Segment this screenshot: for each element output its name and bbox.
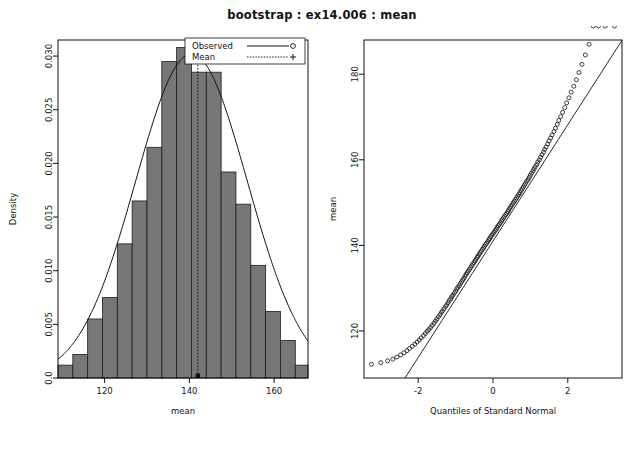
qq-x-tick-label: 0: [490, 386, 495, 396]
qq-data-point: [583, 53, 587, 57]
histogram-bar: [132, 201, 147, 378]
histogram-x-tick-label: 120: [96, 386, 112, 396]
qq-y-tick-label: 160: [350, 152, 360, 168]
histogram-x-axis: 120140160: [96, 378, 282, 396]
qq-y-tick-label: 140: [350, 237, 360, 253]
histogram-y-tick-label: 0.025: [44, 98, 54, 122]
histogram-svg: 0.00.0050.0100.0150.0200.0250.030 120140…: [0, 26, 322, 446]
histogram-y-axis-label: Density: [8, 193, 18, 225]
legend-label: Observed: [192, 41, 233, 51]
histogram-bar: [295, 365, 308, 378]
histogram-bar: [206, 72, 221, 378]
histogram-bars: [58, 48, 308, 378]
qq-x-tick-label: -2: [414, 386, 422, 396]
qq-data-point: [395, 355, 399, 359]
histogram-y-tick-label: 0.030: [44, 44, 54, 68]
qq-data-points: [369, 26, 616, 366]
qq-data-point: [574, 78, 578, 82]
histogram-bar: [191, 72, 206, 378]
histogram-bar: [73, 354, 88, 378]
qq-data-point: [596, 26, 600, 28]
histogram-y-tick-label: 0.020: [44, 151, 54, 175]
histogram-bar: [117, 244, 132, 378]
histogram-bar: [88, 319, 103, 378]
qq-data-point: [580, 62, 584, 66]
qq-reference-line: [405, 40, 622, 378]
figure-title: bootstrap : ex14.006 : mean: [0, 8, 644, 22]
qq-data-point: [405, 349, 409, 353]
histogram-x-tick-label: 140: [181, 386, 197, 396]
histogram-y-tick-label: 0.0: [44, 371, 54, 385]
mean-marker: [196, 374, 200, 378]
qq-y-tick-label: 120: [350, 323, 360, 339]
qq-data-point: [565, 101, 569, 105]
qq-data-point: [379, 361, 383, 365]
qq-y-axis-label: mean: [328, 197, 338, 221]
histogram-y-tick-label: 0.005: [44, 312, 54, 336]
qq-data-point: [587, 42, 591, 46]
qq-x-tick-label: 2: [565, 386, 570, 396]
qq-data-point: [410, 344, 414, 348]
histogram-x-tick-label: 160: [266, 386, 282, 396]
histogram-bar: [147, 147, 162, 378]
qq-plot-svg: 120140160180 -202 Quantiles of Standard …: [322, 26, 644, 446]
histogram-bar: [280, 340, 295, 378]
qq-data-point: [567, 96, 571, 100]
legend-label: Mean: [192, 52, 215, 62]
qq-data-point: [577, 71, 581, 75]
qq-data-point: [603, 26, 607, 28]
qq-data-point: [408, 346, 412, 350]
qq-data-point: [386, 359, 390, 363]
histogram-bar: [236, 204, 251, 378]
qq-data-point: [572, 84, 576, 88]
histogram-bar: [102, 298, 117, 378]
histogram-bar: [251, 265, 266, 378]
histogram-legend: ObservedMean: [185, 38, 305, 64]
qq-x-axis: -202: [414, 378, 571, 396]
qq-y-axis: 120140160180: [350, 66, 364, 339]
histogram-bar: [266, 311, 281, 378]
qq-data-point: [391, 357, 395, 361]
qq-y-tick-label: 180: [350, 66, 360, 82]
qq-data-point: [553, 126, 557, 130]
qq-reference-line-segment: [405, 40, 622, 378]
qq-data-point: [559, 115, 563, 119]
qq-plot-panel: 120140160180 -202 Quantiles of Standard …: [322, 26, 644, 446]
qq-data-point: [557, 118, 561, 122]
histogram-y-tick-label: 0.015: [44, 205, 54, 229]
qq-data-point: [613, 26, 617, 28]
histogram-panel: 0.00.0050.0100.0150.0200.0250.030 120140…: [0, 26, 322, 446]
qq-data-point: [561, 110, 565, 114]
figure-container: bootstrap : ex14.006 : mean 0.00.0050.01…: [0, 0, 644, 452]
qq-data-point: [563, 106, 567, 110]
histogram-bar: [162, 61, 177, 378]
qq-data-point: [369, 362, 373, 366]
qq-frame: [364, 40, 622, 378]
histogram-bar: [177, 48, 192, 378]
histogram-y-axis: 0.00.0050.0100.0150.0200.0250.030: [44, 44, 58, 385]
histogram-y-tick-label: 0.010: [44, 259, 54, 283]
qq-data-point: [569, 90, 573, 94]
histogram-bar: [221, 172, 236, 378]
histogram-x-axis-label: mean: [171, 406, 195, 416]
qq-data-point: [555, 122, 559, 126]
qq-x-axis-label: Quantiles of Standard Normal: [430, 406, 556, 416]
qq-data-point: [591, 26, 595, 28]
histogram-bar: [58, 365, 73, 378]
